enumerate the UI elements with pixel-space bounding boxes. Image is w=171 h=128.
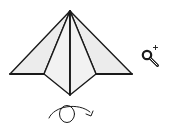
diagram-svg [0, 0, 171, 128]
origami-diagram [0, 0, 171, 128]
apex-point [68, 10, 71, 13]
magnifier-plus-icon [143, 45, 158, 66]
turn-over-arrow-icon [49, 106, 93, 123]
folded-paper-model [10, 10, 132, 95]
